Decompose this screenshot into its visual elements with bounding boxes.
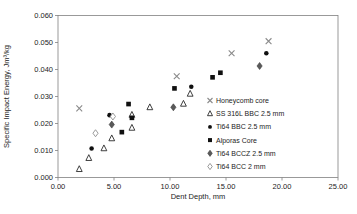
diamond-open-marker: [208, 163, 213, 169]
triangle-open-marker: [86, 155, 92, 161]
legend-label-ti64-bccz-2-5-mm: Ti64 BCCZ 2.5 mm: [216, 150, 276, 157]
triangle-open-marker: [101, 145, 107, 151]
plot-area-border: [58, 16, 338, 178]
y-tick-label: 0.020: [34, 119, 53, 128]
legend-label-ti64-bbc-2-5-mm: Ti64 BBC 2.5 mm: [216, 123, 271, 130]
triangle-open-marker: [208, 111, 213, 116]
circle-filled-marker: [189, 85, 194, 90]
scatter-plot: 0.005.0010.0015.0020.0025.000.0000.0100.…: [0, 0, 357, 214]
circle-filled-marker: [208, 125, 212, 129]
diamond-filled-marker: [208, 150, 213, 156]
y-tick-label: 0.030: [34, 92, 53, 101]
y-axis-title: Specific Impact Energy, Jm³/kg: [2, 45, 11, 148]
square-filled-marker: [120, 130, 125, 135]
legend-label-ss-316l-bbc-2-5-mm: SS 316L BBC 2.5 mm: [216, 110, 284, 117]
circle-filled-marker: [264, 51, 269, 56]
diamond-filled-marker: [109, 121, 114, 128]
y-tick-label: 0.060: [34, 11, 53, 20]
x-tick-label: 20.00: [273, 182, 292, 191]
x-cross-marker: [208, 98, 213, 103]
y-tick-label: 0.010: [34, 146, 53, 155]
triangle-open-marker: [147, 104, 153, 110]
y-tick-label: 0.050: [34, 38, 53, 47]
x-cross-marker: [76, 105, 82, 111]
x-axis-title: Dent Depth, mm: [171, 192, 226, 201]
y-tick-label: 0.040: [34, 65, 53, 74]
legend-label-honeycomb-core: Honeycomb core: [216, 97, 269, 105]
x-tick-label: 25.00: [329, 182, 348, 191]
x-tick-label: 15.00: [217, 182, 236, 191]
square-filled-marker: [218, 70, 223, 75]
diamond-filled-marker: [171, 104, 176, 111]
diamond-filled-marker: [257, 62, 262, 69]
square-filled-marker: [172, 86, 177, 91]
triangle-open-marker: [76, 166, 82, 172]
x-cross-marker: [229, 50, 235, 56]
triangle-open-marker: [129, 124, 135, 130]
x-tick-label: 0.00: [51, 182, 66, 191]
chart-figure: 0.005.0010.0015.0020.0025.000.0000.0100.…: [0, 0, 357, 214]
square-filled-marker: [210, 75, 215, 80]
circle-filled-marker: [89, 146, 94, 151]
x-tick-label: 10.00: [161, 182, 180, 191]
square-filled-marker: [130, 116, 135, 121]
x-cross-marker: [174, 73, 180, 79]
y-tick-label: 0.000: [34, 173, 53, 182]
legend-label-ti64-bcc-2-mm: Ti64 BCC 2 mm: [216, 163, 266, 170]
triangle-open-marker: [181, 100, 187, 106]
triangle-open-marker: [187, 90, 193, 96]
triangle-open-marker: [109, 135, 115, 141]
x-cross-marker: [266, 38, 272, 44]
square-filled-marker: [126, 102, 131, 107]
square-filled-marker: [208, 138, 212, 142]
diamond-open-marker: [93, 130, 98, 137]
legend-label-alporas-core: Alporas Core: [216, 137, 257, 145]
x-tick-label: 5.00: [107, 182, 122, 191]
